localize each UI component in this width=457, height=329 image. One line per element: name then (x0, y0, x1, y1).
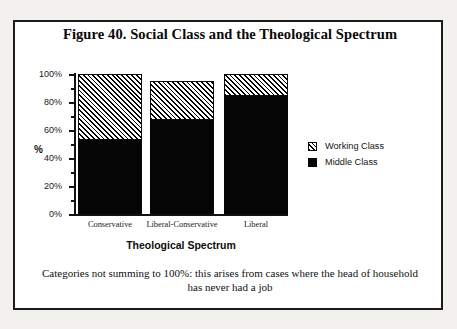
y-tick-label-20: 20% (44, 181, 62, 191)
y-minor-tick-30 (71, 172, 74, 174)
legend-item-working-class[interactable]: Working Class (308, 139, 384, 153)
y-tick-0: 0% (69, 214, 74, 216)
y-tick-label-100: 100% (39, 69, 62, 79)
y-tick-40: 40% (69, 158, 74, 160)
y-minor-tick-90 (71, 88, 74, 90)
legend-swatch-solid-icon (308, 158, 317, 167)
legend-label-working-class: Working Class (325, 141, 384, 151)
figure-title: Figure 40. Social Class and the Theologi… (15, 26, 445, 43)
y-tick-60: 60% (69, 130, 74, 132)
y-minor-tick-70 (71, 116, 74, 118)
x-tick-label-conservative: Conservative (88, 220, 132, 229)
y-tick-100: 100% (69, 74, 74, 76)
y-tick-label-60: 60% (44, 125, 62, 135)
legend-label-middle-class: Middle Class (325, 157, 378, 167)
bar-segment-middle-class[interactable] (78, 140, 142, 214)
bar-segment-working-class[interactable] (78, 74, 142, 140)
x-axis-line (74, 214, 288, 216)
y-minor-tick-10 (71, 200, 74, 202)
y-tick-20: 20% (69, 186, 74, 188)
legend-swatch-hatched-icon (308, 142, 317, 151)
figure-root: Figure 40. Social Class and the Theologi… (0, 0, 457, 329)
x-tick-label-liberal-conservative: Liberal-Conservative (146, 220, 217, 229)
bar-segment-working-class[interactable] (224, 74, 288, 96)
y-axis-line (74, 73, 76, 215)
legend: Working Class Middle Class (308, 139, 384, 171)
y-tick-label-0: 0% (49, 209, 62, 219)
bar-segment-middle-class[interactable] (150, 120, 214, 214)
legend-item-middle-class[interactable]: Middle Class (308, 155, 384, 169)
figure-footnote: Categories not summing to 100%: this ari… (37, 266, 423, 294)
plot-area: 0% 20% 40% 60% 80% 100% (74, 74, 287, 214)
x-tick-label-liberal: Liberal (244, 220, 268, 229)
y-tick-80: 80% (69, 102, 74, 104)
y-tick-label-80: 80% (44, 97, 62, 107)
figure-border: Figure 40. Social Class and the Theologi… (13, 20, 443, 310)
y-minor-tick-50 (71, 144, 74, 146)
y-axis-title: % (34, 144, 43, 155)
bar-segment-middle-class[interactable] (224, 96, 288, 214)
bar-segment-working-class[interactable] (150, 81, 214, 120)
y-tick-label-40: 40% (44, 153, 62, 163)
x-axis-title: Theological Spectrum (74, 239, 288, 251)
